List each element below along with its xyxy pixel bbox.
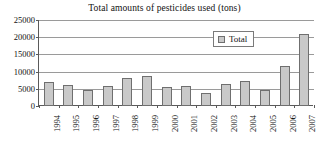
chart-legend: Total xyxy=(213,31,254,47)
y-tick-label: 25000 xyxy=(14,16,35,25)
bar[interactable] xyxy=(142,76,152,106)
bar-slot xyxy=(118,20,138,106)
x-tick-label: 1998 xyxy=(131,115,140,132)
x-tick-mark xyxy=(196,105,197,108)
bar-slot xyxy=(78,20,98,106)
bar[interactable] xyxy=(103,86,113,106)
bar[interactable] xyxy=(240,81,250,106)
plot-area: 0500010000150002000025000 19941995199619… xyxy=(38,20,313,106)
x-tick-mark xyxy=(177,105,178,108)
bar[interactable] xyxy=(280,66,290,106)
x-tick-mark xyxy=(255,105,256,108)
y-tick-label: 15000 xyxy=(14,50,35,59)
y-tick-label: 20000 xyxy=(14,33,35,42)
x-tick-mark xyxy=(157,105,158,108)
bar[interactable] xyxy=(201,93,211,106)
y-tick-label: 5000 xyxy=(18,84,35,93)
bar[interactable] xyxy=(221,84,231,106)
bar-slot xyxy=(39,20,59,106)
y-tick-label: 10000 xyxy=(14,67,35,76)
bar-slot xyxy=(137,20,157,106)
x-tick-mark xyxy=(216,105,217,108)
y-tick-label: 0 xyxy=(31,102,35,111)
bar[interactable] xyxy=(44,82,54,106)
x-tick-label: 1996 xyxy=(92,115,101,132)
x-tick-mark xyxy=(59,105,60,108)
x-tick-label: 2006 xyxy=(289,115,298,132)
bar[interactable] xyxy=(260,90,270,106)
x-tick-label: 2001 xyxy=(190,115,199,132)
bar-slot xyxy=(255,20,275,106)
x-tick-mark xyxy=(39,105,40,108)
bar[interactable] xyxy=(162,87,172,106)
x-tick-label: 2004 xyxy=(249,115,258,132)
x-tick-label: 1999 xyxy=(151,115,160,132)
legend-swatch-total-icon xyxy=(218,36,225,43)
bar[interactable] xyxy=(181,86,191,106)
x-tick-mark xyxy=(78,105,79,108)
bar-slot xyxy=(157,20,177,106)
x-tick-label: 2007 xyxy=(308,115,317,132)
x-tick-label: 1994 xyxy=(53,115,62,132)
bar-slot xyxy=(294,20,314,106)
bar[interactable] xyxy=(83,90,93,107)
chart-figure: Total amounts of pesticides used (tons) … xyxy=(0,0,329,148)
chart-title: Total amounts of pesticides used (tons) xyxy=(0,2,329,14)
x-tick-mark xyxy=(118,105,119,108)
x-tick-label: 2000 xyxy=(171,115,180,132)
legend-label-total: Total xyxy=(229,34,247,44)
bar-slot xyxy=(98,20,118,106)
x-tick-mark xyxy=(275,105,276,108)
x-tick-mark xyxy=(98,105,99,108)
x-tick-mark xyxy=(235,105,236,108)
x-tick-label: 1997 xyxy=(112,115,121,132)
bar-slot xyxy=(177,20,197,106)
bars-layer xyxy=(39,20,314,106)
x-tick-label: 2003 xyxy=(230,115,239,132)
x-tick-mark xyxy=(294,105,295,108)
x-tick-label: 2005 xyxy=(269,115,278,132)
bar[interactable] xyxy=(63,85,73,106)
x-tick-label: 1995 xyxy=(72,115,81,132)
x-tick-mark xyxy=(137,105,138,108)
bar[interactable] xyxy=(122,78,132,106)
bar[interactable] xyxy=(299,34,309,106)
bar-slot xyxy=(59,20,79,106)
x-tick-mark xyxy=(314,105,315,108)
bar-slot xyxy=(275,20,295,106)
x-tick-label: 2002 xyxy=(210,115,219,132)
